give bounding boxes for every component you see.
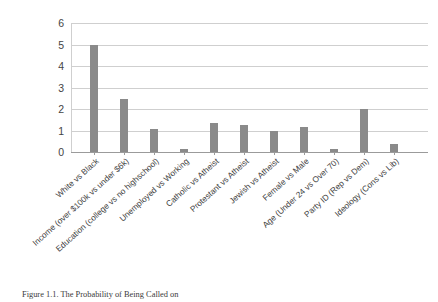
figure-title: The Probability of Being Called on bbox=[60, 290, 178, 299]
x-axis-label-text: Catholic vs Atheist bbox=[163, 156, 220, 209]
bar bbox=[390, 144, 398, 152]
bar bbox=[90, 45, 98, 153]
figure-number: Figure 1.1. bbox=[22, 290, 59, 299]
figure-caption: Figure 1.1. The Probability of Being Cal… bbox=[22, 290, 422, 302]
figure-container: 0123456 White vs BlackIncome (over $100k… bbox=[0, 0, 438, 302]
x-axis-category-labels: White vs BlackIncome (over $100k vs unde… bbox=[0, 152, 438, 282]
